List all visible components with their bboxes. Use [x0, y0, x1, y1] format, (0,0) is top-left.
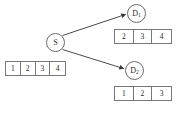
buffer-cell: 2 — [21, 62, 36, 75]
destination-1-buffer: 2 3 4 — [114, 29, 172, 44]
destination-node-1-subscript: 1 — [138, 12, 141, 18]
buffer-cell: 1 — [6, 62, 21, 75]
destination-node-2-label: D2 — [130, 67, 139, 75]
buffer-cell: 2 — [134, 87, 153, 100]
source-node-label: S — [53, 39, 57, 47]
destination-2-buffer: 1 2 3 — [114, 86, 172, 101]
source-buffer: 1 2 3 4 — [5, 61, 66, 76]
destination-node-1-label: D1 — [132, 10, 141, 18]
destination-node-1[interactable]: D1 — [127, 4, 146, 23]
diagram-canvas: S D1 D2 1 2 3 4 2 3 4 1 2 3 — [0, 0, 178, 114]
buffer-cell: 3 — [152, 87, 171, 100]
buffer-cell: 2 — [115, 30, 134, 43]
buffer-cell: 4 — [50, 62, 65, 75]
buffer-cell: 3 — [36, 62, 51, 75]
buffer-cell: 1 — [115, 87, 134, 100]
source-node[interactable]: S — [46, 33, 65, 52]
buffer-cell: 3 — [134, 30, 153, 43]
destination-node-2[interactable]: D2 — [125, 61, 144, 80]
edge-s-to-d2 — [63, 50, 124, 69]
buffer-cell: 4 — [152, 30, 171, 43]
destination-node-2-subscript: 2 — [136, 69, 139, 75]
